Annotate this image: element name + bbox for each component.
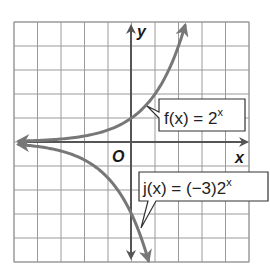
exponential-graph-figure: y x O f(x) = 2x j(x) = (−3)2x [0,0,270,278]
origin-label: O [112,148,125,165]
y-axis-label: y [136,23,147,40]
label-j-text: j(x) = (−3)2x [142,176,232,198]
x-axis-label: x [234,149,245,166]
curve-j [19,145,149,261]
label-callout-f: f(x) = 2x [147,99,245,131]
label-f-text: f(x) = 2x [164,106,223,128]
